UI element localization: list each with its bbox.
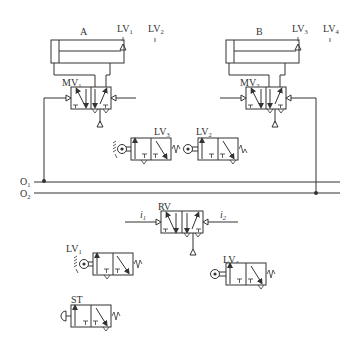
cylinder-a-label: A xyxy=(80,26,88,37)
main-valve-mv2: MV2 xyxy=(220,77,316,127)
valve-lv2: LV2 xyxy=(184,126,248,164)
svg-text:LV1: LV1 xyxy=(66,243,82,255)
svg-text:RV: RV xyxy=(158,201,172,212)
signal-line-o1: O1 xyxy=(20,176,340,188)
main-valve-mv1: MV1 xyxy=(44,77,136,127)
valve-st: ST xyxy=(61,294,120,331)
svg-text:i2: i2 xyxy=(220,209,227,221)
signal-line-o2: O2 xyxy=(20,188,340,200)
svg-text:O1: O1 xyxy=(20,176,30,188)
valve-lv4: LV4 xyxy=(211,254,276,289)
svg-text:LV3: LV3 xyxy=(154,126,170,138)
svg-text:i1: i1 xyxy=(140,209,146,221)
cylinder-b-label: B xyxy=(256,26,263,37)
valve-lv3: LV3 xyxy=(113,126,180,164)
svg-text:LV1: LV1 xyxy=(117,23,133,35)
svg-text:LV2: LV2 xyxy=(196,126,212,138)
svg-text:LV4: LV4 xyxy=(323,23,339,35)
svg-text:O2: O2 xyxy=(20,188,30,200)
valve-lv1: LV1 xyxy=(66,243,142,279)
svg-text:ST: ST xyxy=(71,294,83,305)
pneumatic-circuit-diagram: A LV1 LV2 MV1 xyxy=(0,0,358,351)
svg-text:LV3: LV3 xyxy=(292,23,308,35)
svg-text:LV2: LV2 xyxy=(148,23,164,35)
limit-marker-lv2: LV2 xyxy=(148,23,164,42)
valve-rv: RV i1 i2 xyxy=(125,201,238,255)
limit-marker-lv4-top: LV4 xyxy=(323,23,339,42)
